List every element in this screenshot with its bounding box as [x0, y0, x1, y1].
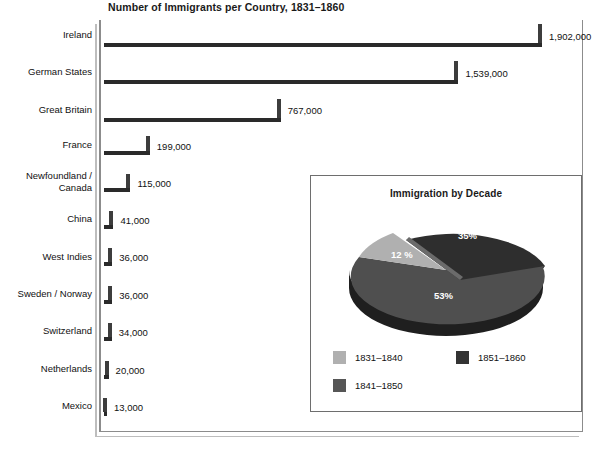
bar-side-face	[109, 211, 113, 225]
bar-side-face	[105, 361, 109, 375]
bar-value-label: 36,000	[119, 290, 148, 301]
bar-bottom-shadow	[104, 151, 150, 155]
bar-value-label: 34,000	[119, 327, 148, 338]
bar	[100, 174, 126, 188]
bar	[100, 248, 108, 262]
bar-value-label: 767,000	[288, 105, 322, 116]
legend-item-1831-1840: 1831–1840	[333, 351, 403, 364]
chart-screenshot: Number of Immigrants per Country, 1831–1…	[0, 0, 605, 452]
bar-row: German States1,539,000	[0, 61, 605, 84]
category-label: Ireland	[63, 29, 92, 41]
bar-bottom-shadow	[104, 375, 109, 379]
bar	[100, 61, 454, 80]
category-label: West Indies	[43, 251, 92, 263]
legend-item-1841-1850: 1841–1850	[333, 379, 403, 392]
bar	[100, 24, 538, 43]
category-label: Switzerland	[43, 325, 92, 337]
bar-value-label: 20,000	[116, 365, 145, 376]
pie-chart-svg	[339, 208, 554, 343]
bar	[100, 398, 103, 412]
bar	[100, 286, 108, 300]
legend-swatch-1851-1860	[456, 351, 469, 364]
bar-side-face	[277, 99, 281, 118]
bar-side-face	[146, 136, 150, 151]
bar-bottom-shadow	[104, 80, 458, 84]
bar-side-face	[103, 398, 107, 412]
category-label: German States	[28, 66, 92, 78]
bar-side-face	[538, 24, 542, 43]
legend-label-1841-1850: 1841–1850	[355, 380, 403, 391]
bar-bottom-shadow	[104, 225, 113, 229]
inset-title: Immigration by Decade	[311, 188, 581, 199]
category-label: Sweden / Norway	[18, 288, 92, 300]
bar-bottom-shadow	[104, 262, 112, 266]
bar-value-label: 13,000	[114, 402, 143, 413]
bar-row: France199,000	[0, 136, 605, 155]
bar-bottom-shadow	[104, 300, 112, 304]
bar	[100, 99, 277, 118]
pie-chart: 35% 12 % 53%	[339, 208, 554, 343]
page-title: Number of Immigrants per Country, 1831–1…	[108, 1, 528, 13]
legend-label-1851-1860: 1851–1860	[478, 352, 526, 363]
bar-bottom-shadow	[104, 337, 112, 341]
bar	[100, 136, 146, 151]
legend-swatch-1841-1850	[333, 379, 346, 392]
category-label: Great Britain	[39, 104, 92, 116]
clipped-footer-text	[4, 441, 15, 452]
category-label: Netherlands	[41, 363, 92, 375]
bar-value-label: 36,000	[119, 252, 148, 263]
bar-row: Ireland1,902,000	[0, 24, 605, 47]
bar-value-label: 115,000	[137, 178, 171, 189]
legend-item-1851-1860: 1851–1860	[456, 351, 526, 364]
legend-label-1831-1840: 1831–1840	[355, 352, 403, 363]
bar-side-face	[108, 286, 112, 300]
bar-value-label: 199,000	[157, 141, 191, 152]
bar-side-face	[108, 323, 112, 337]
bar-side-face	[454, 61, 458, 80]
bar-bottom-shadow	[104, 412, 107, 416]
bar	[100, 323, 108, 337]
bar-value-label: 1,539,000	[465, 68, 507, 79]
pie-label-1831-1840: 12 %	[391, 249, 413, 260]
bar-value-label: 41,000	[120, 215, 149, 226]
bar-bottom-shadow	[104, 43, 542, 47]
category-label: Mexico	[62, 400, 92, 412]
category-axis-depth-line	[95, 436, 579, 437]
category-label: France	[62, 139, 92, 151]
bar	[100, 361, 105, 375]
bar-side-face	[108, 248, 112, 262]
bar-bottom-shadow	[104, 118, 281, 122]
legend-swatch-1831-1840	[333, 351, 346, 364]
inset-panel-immigration-by-decade: Immigration by Decade 35% 12 % 53%	[310, 175, 582, 412]
bar-row: Great Britain767,000	[0, 99, 605, 122]
category-label: China	[67, 213, 92, 225]
bar-side-face	[126, 174, 130, 188]
pie-label-1841-1850: 53%	[434, 290, 453, 301]
category-label: Newfoundland / Canada	[26, 170, 92, 193]
bar-bottom-shadow	[104, 188, 130, 192]
bar	[100, 211, 109, 225]
pie-label-1851-1860: 35%	[458, 230, 477, 241]
bar-value-label: 1,902,000	[549, 31, 591, 42]
